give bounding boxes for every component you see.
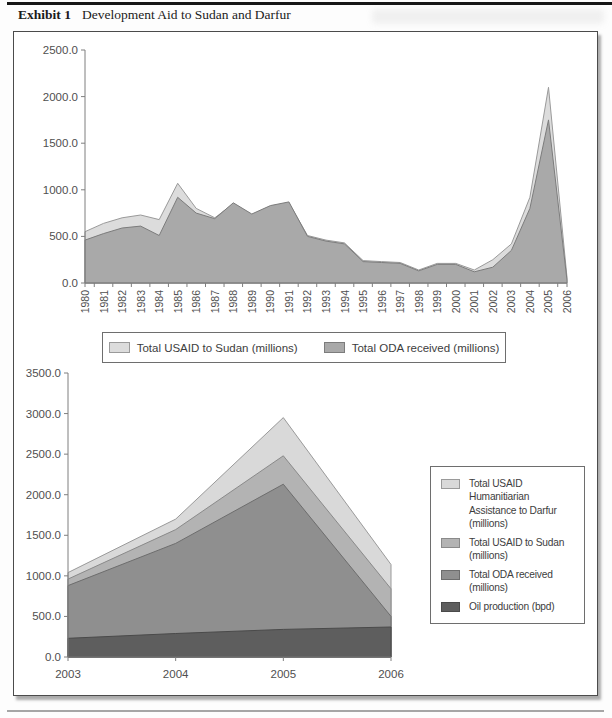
- legend-item-oda-received-2: Total ODA received (millions): [441, 568, 576, 595]
- legend-swatch-oda-received-2: [441, 570, 460, 580]
- legend-label-usaid-sudan-2: Total USAID to Sudan (millions): [469, 536, 576, 563]
- exhibit-header: Exhibit 1Development Aid to Sudan and Da…: [18, 7, 291, 23]
- scanned-exhibit-page: Exhibit 1Development Aid to Sudan and Da…: [0, 0, 612, 718]
- legend-label-oda-received: Total ODA received (millions): [352, 342, 500, 354]
- legend-item-usaid-sudan-2: Total USAID to Sudan (millions): [441, 536, 576, 563]
- exhibit-title: Development Aid to Sudan and Darfur: [82, 7, 291, 22]
- legend-swatch-usaid-sudan-2: [441, 538, 460, 548]
- legend-swatch-darfur-humanitarian: [441, 479, 460, 489]
- legend-label-oda-received-2: Total ODA received (millions): [469, 568, 576, 595]
- scan-artifact: [372, 9, 604, 24]
- legend-item-oda-received: Total ODA received (millions): [324, 342, 500, 354]
- legend-label-usaid-sudan: Total USAID to Sudan (millions): [137, 342, 298, 354]
- legend-label-darfur-humanitarian: Total USAID Humanitiarian Assistance to …: [469, 477, 576, 531]
- top-border-rule: [7, 2, 612, 5]
- bottom-border-rule: [7, 710, 604, 712]
- top-chart-legend: Total USAID to Sudan (millions) Total OD…: [102, 332, 506, 363]
- legend-swatch-oda-received: [324, 342, 345, 353]
- legend-swatch-usaid-sudan: [109, 342, 130, 353]
- legend-item-usaid-sudan: Total USAID to Sudan (millions): [109, 342, 298, 354]
- exhibit-label: Exhibit 1: [18, 7, 71, 22]
- legend-item-oil-production: Oil production (bpd): [441, 600, 576, 613]
- legend-label-oil-production: Oil production (bpd): [469, 600, 576, 613]
- legend-item-darfur-humanitarian: Total USAID Humanitiarian Assistance to …: [441, 477, 576, 531]
- legend-swatch-oil-production: [441, 602, 460, 612]
- bottom-chart-legend: Total USAID Humanitiarian Assistance to …: [430, 466, 585, 624]
